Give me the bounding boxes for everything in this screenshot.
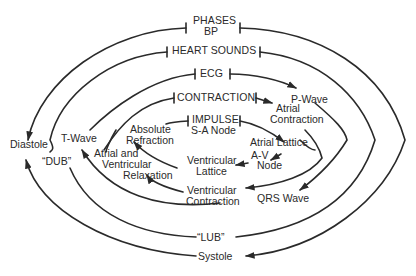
relaxation-label: Relaxation	[123, 170, 173, 181]
contraction-to-atrial	[256, 98, 272, 103]
bp-label: BP	[204, 26, 218, 37]
av-to-ventricular-lattice	[236, 163, 248, 165]
qrs-wave-label: QRS Wave	[257, 193, 309, 204]
refraction-label: Refraction	[126, 135, 174, 146]
sa-node-label: S-A Node	[191, 125, 236, 136]
systole-label: Systole	[198, 251, 232, 262]
atrial-lattice-label: Atrial Lattice	[250, 137, 308, 148]
ecg-label: ECG	[200, 68, 223, 79]
heart-sounds-label: HEART SOUNDS	[172, 45, 256, 56]
node-label: Node	[257, 160, 282, 171]
ventricular-contraction-label-2: Contraction	[186, 196, 240, 207]
contraction-label: CONTRACTION	[177, 92, 255, 103]
atrial-contraction-label: Contraction	[270, 114, 324, 125]
ventricular-lattice-label-2: Lattice	[196, 166, 227, 177]
dub-label: “DUB”	[42, 156, 71, 167]
t-wave-label: T-Wave	[61, 133, 97, 144]
diastole-label: Diastole	[10, 139, 48, 150]
ecg-arc-to-pwave	[230, 74, 296, 88]
lub-label: “LUB”	[197, 232, 224, 243]
